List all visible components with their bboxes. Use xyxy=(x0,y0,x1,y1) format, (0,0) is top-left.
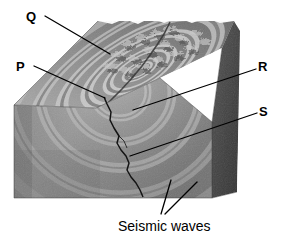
callout-label-s: S xyxy=(259,105,268,118)
seismic-waves-caption: Seismic waves xyxy=(118,218,211,234)
block-diagram-svg xyxy=(0,0,282,244)
callout-label-q: Q xyxy=(26,10,36,23)
callout-label-r: R xyxy=(258,60,267,73)
seismic-waves-figure: Q P R S Seismic waves xyxy=(0,0,282,244)
callout-label-p: P xyxy=(16,60,25,73)
